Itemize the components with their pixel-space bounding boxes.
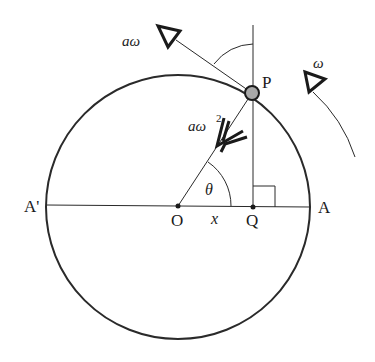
particle-p	[245, 86, 259, 100]
velocity-arrowhead-icon	[158, 26, 180, 47]
label-q: Q	[246, 211, 258, 230]
shm-circle-diagram: P O Q A A' x θ aω aω 2 ω	[0, 0, 375, 362]
angular-velocity-arrowhead-icon	[305, 72, 325, 92]
foot-point-q	[251, 205, 256, 210]
center-point-o	[176, 204, 181, 209]
label-omega: ω	[313, 55, 324, 71]
label-p: P	[262, 73, 271, 92]
label-a: A	[318, 198, 331, 217]
angle-arc-at-p	[214, 44, 253, 64]
tangent-velocity-line	[176, 40, 252, 93]
label-o: O	[171, 211, 183, 230]
right-angle-marker	[253, 186, 275, 207]
label-a-prime: A'	[24, 197, 39, 216]
label-acceleration: aω	[188, 118, 206, 134]
label-velocity: aω	[122, 33, 140, 49]
radius-op	[178, 93, 252, 206]
label-acceleration-exponent: 2	[216, 112, 222, 124]
label-theta-o: θ	[205, 181, 213, 198]
angular-velocity-arc	[313, 92, 355, 157]
label-x: x	[210, 210, 218, 227]
